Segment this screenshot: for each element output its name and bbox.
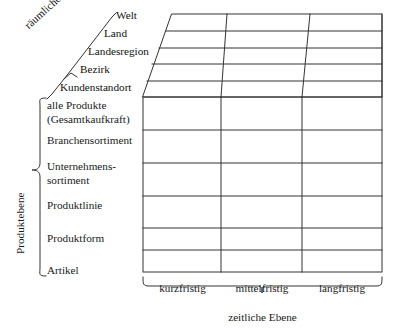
spatial-column-divider-1 [221,14,227,97]
spatial-level-welt: Welt [116,9,137,22]
product-level-produktlinie-line1: Produktlinie [47,199,102,213]
product-level-alle-produkte: alle Produkte (Gesamtkaufkraft) [47,99,130,126]
diagram-canvas: räumliche Ebene Welt Land Landesregion B… [0,0,402,331]
product-face-outline [143,97,382,272]
product-level-branchensortiment-line1: Branchensortiment [47,134,132,148]
product-level-alle-produkte-line2: (Gesamtkaufkraft) [47,113,130,127]
product-axis-brace [32,98,46,276]
product-level-unternehmenssortiment-line1: Unternehmens- [47,160,116,174]
spatial-column-divider-2 [302,14,310,97]
time-level-mittelfristig: mittelfristig [222,282,302,294]
spatial-level-kundenstandort: Kundenstandort [60,81,131,94]
product-level-produktform: Produktform [47,232,104,246]
spatial-level-bezirk: Bezirk [80,63,110,76]
product-level-artikel-line1: Artikel [47,264,79,278]
spatial-level-landesregion: Landesregion [88,45,149,58]
product-level-alle-produkte-line1: alle Produkte [47,99,130,113]
product-level-artikel: Artikel [47,264,79,278]
product-level-unternehmenssortiment-line2: sortiment [47,174,116,188]
spatial-face-outline [143,14,382,97]
time-axis-caption: zeitliche Ebene [143,311,382,323]
spatial-level-land: Land [104,27,127,40]
time-level-kurzfristig: kurzfristig [143,282,222,294]
product-level-produktlinie: Produktlinie [47,199,102,213]
product-level-branchensortiment: Branchensortiment [47,134,132,148]
time-level-langfristig: langfristig [302,282,382,294]
product-axis-caption: Produktebene [14,192,26,254]
product-level-unternehmenssortiment: Unternehmens- sortiment [47,160,116,187]
product-level-produktform-line1: Produktform [47,232,104,246]
